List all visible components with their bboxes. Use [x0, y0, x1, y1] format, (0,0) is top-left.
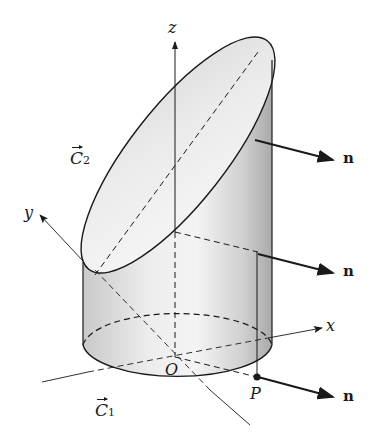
curve-c2-label: C2 [70, 150, 90, 167]
y-axis [40, 215, 83, 261]
point-p-label: P [250, 386, 261, 402]
curve-c2-letter: C [70, 150, 83, 167]
curve-c2-subscript: 2 [83, 154, 90, 167]
y-axis-front [210, 390, 250, 425]
curve-c1-letter: C [95, 402, 108, 419]
z-axis-label: z [168, 20, 176, 36]
x-axis-left [42, 372, 88, 382]
curve-c1-label: C1 [95, 402, 115, 419]
y-axis-label: y [24, 205, 33, 221]
normal-label-top: n [343, 151, 354, 166]
curve-c1-subscript: 1 [108, 406, 115, 419]
origin-label: O [165, 362, 178, 378]
normal-label-middle: n [343, 264, 354, 279]
x-axis [268, 328, 322, 338]
cylinder-diagram [0, 0, 372, 443]
x-axis-label: x [326, 318, 335, 334]
normal-vector-bottom [258, 377, 333, 397]
normal-label-bottom: n [343, 389, 354, 404]
